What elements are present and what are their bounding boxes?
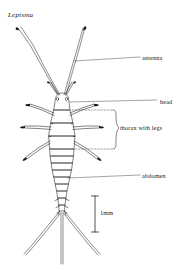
label-head: head — [160, 98, 172, 105]
leg-right-1 — [70, 104, 99, 116]
leader-abdomen — [68, 175, 140, 178]
head-capsule — [47, 81, 76, 110]
insect-drawing — [0, 0, 187, 271]
thorax-brace — [113, 110, 119, 149]
leg-right-3 — [74, 141, 102, 161]
antenna-left — [16, 27, 61, 95]
label-abdomen: abdomen — [142, 172, 166, 179]
leader-antenna — [74, 57, 140, 61]
leg-left-3 — [23, 141, 51, 161]
leg-right-2 — [73, 126, 104, 130]
cercus-right — [64, 212, 101, 255]
median-caudal-filament — [61, 213, 63, 264]
leader-head — [70, 100, 157, 102]
thorax — [49, 110, 75, 149]
label-thorax-with-legs: thorax with legs — [120, 124, 162, 131]
label-scale-bar: 1mm — [100, 209, 113, 216]
scale-bar — [92, 196, 99, 232]
label-antenna: antenna — [142, 54, 162, 61]
cercus-left — [24, 212, 61, 255]
leg-left-1 — [25, 104, 54, 116]
abdomen — [50, 149, 74, 213]
leg-left-2 — [20, 126, 51, 130]
insect-anatomy-figure: Lepisma — [0, 0, 187, 271]
